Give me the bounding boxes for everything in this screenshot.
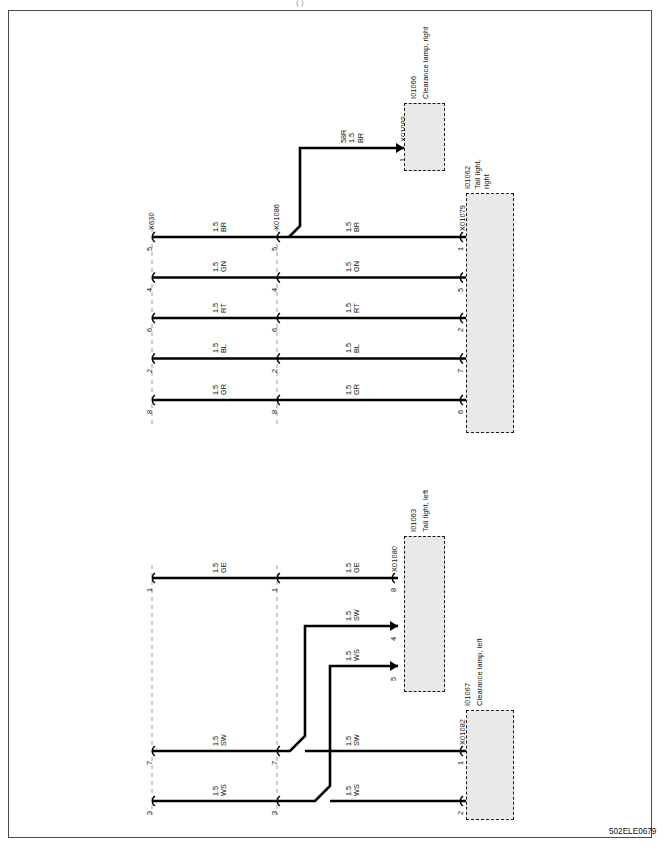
wiring-lines bbox=[0, 0, 665, 858]
wire-label-upper-left-2: 1.5 GN bbox=[212, 261, 229, 272]
pin-x01086-lower-r2: 7 bbox=[270, 761, 279, 765]
pin-x01086-r5: 8 bbox=[270, 410, 279, 414]
pin-x01080-5: 5 bbox=[389, 677, 398, 681]
wire-label-lower-right-2: 1.5 SW bbox=[345, 734, 362, 746]
device-name-i01062-line1: Tail light, bbox=[474, 159, 481, 189]
pin-x01079-r1: 1 bbox=[456, 247, 465, 251]
wire-label-upper-left-5: 1.5 GR bbox=[212, 384, 229, 395]
wire-color: WS bbox=[352, 649, 361, 661]
wire-label-lower-left-3: 1.5 WS bbox=[212, 784, 229, 796]
pin-x630-r5: 8 bbox=[145, 410, 154, 414]
wire-label-upper-right-3: 1.5 RT bbox=[345, 303, 362, 313]
wire-label-lower-branch-sw: 1.5 SW bbox=[345, 609, 362, 621]
connector-label-x01080: X01080 bbox=[391, 546, 398, 572]
wiring-diagram-sheet: ( ) bbox=[0, 0, 665, 858]
device-name-i01062-line2: right bbox=[483, 174, 490, 189]
wire-label-upper-left-3: 1.5 RT bbox=[212, 303, 229, 313]
connector-box-clearance-lamp-right[interactable] bbox=[404, 103, 445, 171]
pin-x630-r4: 2 bbox=[145, 369, 154, 373]
connector-box-tail-light-right[interactable] bbox=[466, 193, 514, 433]
wire-color: GE bbox=[219, 562, 228, 573]
wire-color: GN bbox=[219, 261, 228, 272]
wire-color: BR bbox=[219, 222, 228, 232]
pin-x01079-r2: 5 bbox=[456, 288, 465, 292]
wire-color: BR bbox=[356, 133, 365, 143]
pin-x01079-r4: 7 bbox=[456, 369, 465, 373]
pin-x01082-2: 2 bbox=[456, 811, 465, 815]
wire-label-lower-right-3: 1.5 WS bbox=[345, 784, 362, 796]
pin-x01080-8: 8 bbox=[389, 588, 398, 592]
connector-box-clearance-lamp-left[interactable] bbox=[466, 710, 514, 820]
pin-x01086-r1: 5 bbox=[270, 247, 279, 251]
pin-x630-r1: 5 bbox=[145, 247, 154, 251]
wire-label-branch-58r: 58R 1.5 BR bbox=[340, 130, 365, 143]
wire-label-upper-left-4: 1.5 BL bbox=[212, 343, 229, 353]
pin-x630-lower-r1: 1 bbox=[145, 588, 154, 592]
wire-color: SW bbox=[352, 734, 361, 746]
wire-label-lower-left-2: 1.5 SW bbox=[212, 734, 229, 746]
wire-color: BR bbox=[352, 222, 361, 232]
pin-x01086-r4: 2 bbox=[270, 369, 279, 373]
pin-x01086-r3: 6 bbox=[270, 328, 279, 332]
pin-x01080-4: 4 bbox=[389, 637, 398, 641]
drawing-number: 502ELE0679 bbox=[609, 827, 656, 836]
wire-color: SW bbox=[352, 609, 361, 621]
device-name-i01066: Clearance lamp, right bbox=[422, 27, 429, 99]
wire-label-upper-right-2: 1.5 GN bbox=[345, 261, 362, 272]
pin-x01082-1: 1 bbox=[456, 761, 465, 765]
wire-color: GR bbox=[352, 384, 361, 395]
wire-label-upper-right-4: 1.5 BL bbox=[345, 343, 362, 353]
pin-x01079-r3: 2 bbox=[456, 328, 465, 332]
device-id-i01062: I01062 bbox=[464, 166, 471, 189]
pin-x01086-r2: 4 bbox=[270, 288, 279, 292]
wire-label-upper-right-1: 1.5 BR bbox=[345, 222, 362, 232]
wire-color: WS bbox=[219, 784, 228, 796]
wire-label-upper-left-1: 1.5 BR bbox=[212, 222, 229, 232]
pin-x01086-lower-r3: 3 bbox=[270, 811, 279, 815]
pin-x01079-r5: 6 bbox=[456, 410, 465, 414]
wire-color: WS bbox=[352, 784, 361, 796]
wire-color: GR bbox=[219, 384, 228, 395]
device-id-i01067: I01067 bbox=[464, 683, 471, 706]
device-name-i01063: Tail light, left bbox=[422, 490, 429, 532]
wire-color: SW bbox=[219, 734, 228, 746]
connector-box-tail-light-left[interactable] bbox=[404, 536, 445, 692]
device-id-i01066: I01066 bbox=[410, 76, 417, 99]
pin-x630-lower-r2: 7 bbox=[145, 761, 154, 765]
wire-label-lower-right-1: 1.5 GE bbox=[345, 562, 362, 573]
pin-x630-lower-r3: 3 bbox=[145, 811, 154, 815]
wire-label-lower-branch-ws: 1.5 WS bbox=[345, 649, 362, 661]
wire-label-upper-right-5: 1.5 GR bbox=[345, 384, 362, 395]
wire-color: RT bbox=[352, 303, 361, 313]
pin-x630-r2: 4 bbox=[145, 288, 154, 292]
pin-x630-r3: 6 bbox=[145, 328, 154, 332]
wire-color: GN bbox=[352, 261, 361, 272]
wire-color: RT bbox=[219, 303, 228, 313]
connector-label-x01086: X01086 bbox=[273, 204, 280, 230]
wire-color: BL bbox=[219, 344, 228, 353]
wire-color: GE bbox=[352, 562, 361, 573]
wire-color: BL bbox=[352, 344, 361, 353]
device-name-i01067: Clearance lamp, left bbox=[476, 638, 483, 706]
device-id-i01063: I01063 bbox=[410, 509, 417, 532]
wire-label-lower-left-1: 1.5 GE bbox=[212, 562, 229, 573]
pin-x01086-lower-r1: 1 bbox=[270, 588, 279, 592]
connector-label-x630: X630 bbox=[148, 212, 155, 230]
